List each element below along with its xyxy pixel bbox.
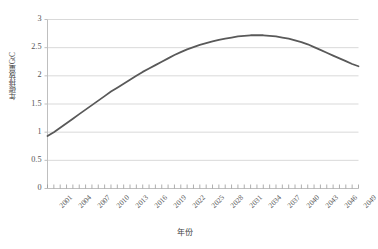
y-tick-label: 2.5 [18, 42, 42, 51]
y-tick-label: 0 [18, 183, 42, 192]
y-tick-label: 0.5 [18, 155, 42, 164]
data-series-line [48, 35, 359, 136]
x-axis-minor-ticks [48, 185, 359, 189]
y-tick-label: 3 [18, 14, 42, 23]
y-tick-label: 2 [18, 70, 42, 79]
y-tick-label: 1.5 [18, 99, 42, 108]
x-axis-title: 年份 [0, 226, 370, 237]
series-line [48, 35, 359, 136]
y-tick-label: 1 [18, 127, 42, 136]
